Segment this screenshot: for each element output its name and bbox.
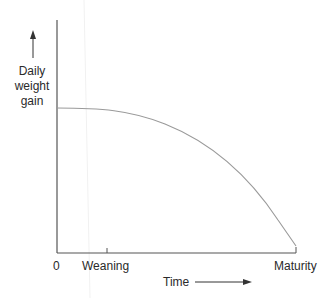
chart-canvas (0, 0, 331, 298)
x-weaning-label: Weaning (82, 260, 129, 273)
y-axis-arrow-icon (30, 30, 36, 58)
weight-gain-curve (57, 108, 296, 246)
y-axis-label-line-2: weight (12, 79, 52, 94)
x-origin-label: 0 (53, 260, 60, 273)
time-arrow-icon (195, 279, 252, 285)
x-maturity-label: Maturity (274, 260, 317, 273)
y-axis-label-line-3: gain (12, 94, 52, 109)
y-axis-label-line-1: Daily (12, 64, 52, 79)
y-axis-label: Daily weight gain (12, 64, 52, 109)
x-axis-label: Time (163, 276, 189, 289)
